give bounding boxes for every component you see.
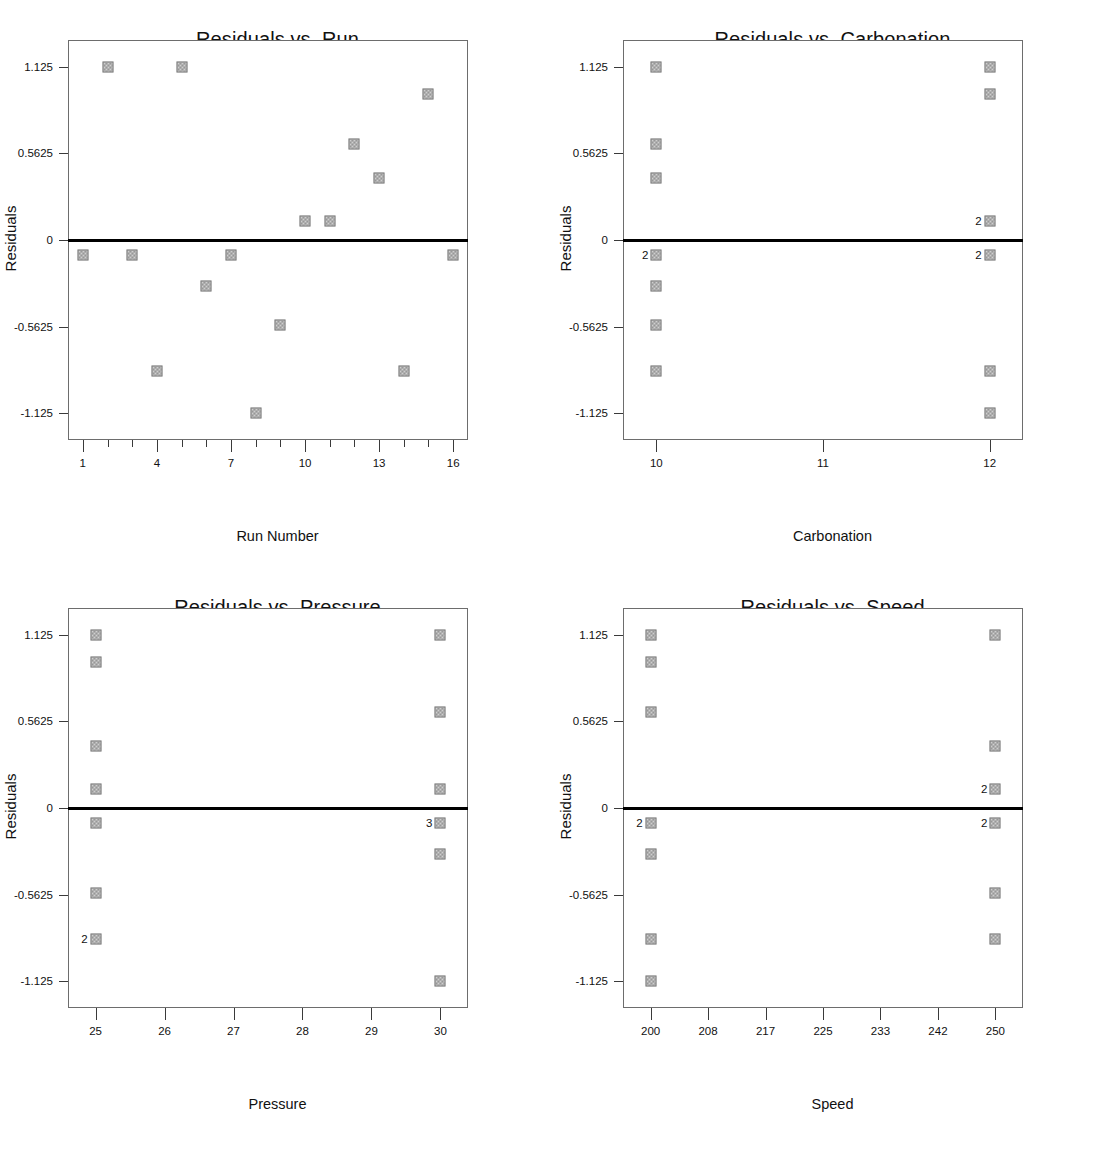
data-point-marker[interactable] (645, 933, 656, 944)
y-axis-tick-label: -1.125 (0, 407, 53, 419)
y-axis-tick (614, 327, 623, 328)
data-point-marker[interactable] (448, 250, 459, 261)
data-point-marker[interactable] (645, 976, 656, 987)
x-axis-tick (165, 1008, 166, 1020)
data-point-marker[interactable] (349, 138, 360, 149)
data-point-marker[interactable] (990, 783, 1001, 794)
y-axis-tick (59, 721, 68, 722)
y-axis-tick-label: 0.5625 (0, 147, 53, 159)
x-axis-tick (990, 440, 991, 452)
data-point-marker[interactable] (300, 215, 311, 226)
y-axis-tick (614, 240, 623, 241)
overlap-count-label: 2 (975, 215, 983, 227)
data-point-marker[interactable] (651, 61, 662, 72)
x-axis-tick-label: 29 (365, 1025, 378, 1037)
data-point-marker[interactable] (984, 88, 995, 99)
x-axis-tick (656, 440, 657, 452)
data-point-marker[interactable] (990, 629, 1001, 640)
data-point-marker[interactable] (374, 173, 385, 184)
data-point-marker[interactable] (90, 818, 101, 829)
data-point-marker[interactable] (90, 629, 101, 640)
data-point-marker[interactable] (324, 215, 335, 226)
data-point-marker[interactable] (984, 61, 995, 72)
data-point-marker[interactable] (645, 849, 656, 860)
x-axis-tick-label: 25 (89, 1025, 102, 1037)
zero-reference-line (68, 239, 468, 242)
overlap-count-label: 2 (981, 783, 989, 795)
overlap-count-label: 2 (636, 817, 644, 829)
x-axis-tick-label: 10 (650, 457, 663, 469)
data-point-marker[interactable] (102, 61, 113, 72)
data-point-marker[interactable] (423, 88, 434, 99)
data-point-marker[interactable] (984, 250, 995, 261)
x-axis-tick-label: 4 (154, 457, 160, 469)
data-point-marker[interactable] (225, 250, 236, 261)
data-point-marker[interactable] (645, 629, 656, 640)
x-axis-tick (302, 1008, 303, 1020)
data-point-marker[interactable] (645, 818, 656, 829)
data-point-marker[interactable] (990, 933, 1001, 944)
data-point-marker[interactable] (90, 933, 101, 944)
data-point-marker[interactable] (651, 319, 662, 330)
data-point-marker[interactable] (201, 281, 212, 292)
x-axis-tick-label: 16 (447, 457, 460, 469)
y-axis-title: Residuals (2, 757, 19, 857)
data-point-marker[interactable] (645, 656, 656, 667)
data-point-marker[interactable] (275, 319, 286, 330)
x-axis-minor-tick (206, 440, 207, 447)
data-point-marker[interactable] (984, 365, 995, 376)
data-point-marker[interactable] (645, 706, 656, 717)
data-point-marker[interactable] (651, 281, 662, 292)
data-point-marker[interactable] (984, 408, 995, 419)
y-axis-title: Residuals (557, 757, 574, 857)
x-axis-minor-tick (182, 440, 183, 447)
data-point-marker[interactable] (151, 365, 162, 376)
data-point-marker[interactable] (176, 61, 187, 72)
y-axis-tick-label: -1.125 (553, 407, 608, 419)
x-axis-tick (995, 1008, 996, 1020)
x-axis-tick-label: 217 (756, 1025, 775, 1037)
y-axis-title: Residuals (557, 189, 574, 289)
data-point-marker[interactable] (435, 818, 446, 829)
data-point-marker[interactable] (435, 976, 446, 987)
y-axis-tick (59, 327, 68, 328)
data-point-marker[interactable] (90, 887, 101, 898)
x-axis-tick-label: 225 (813, 1025, 832, 1037)
data-point-marker[interactable] (398, 365, 409, 376)
data-point-marker[interactable] (90, 656, 101, 667)
data-point-marker[interactable] (90, 741, 101, 752)
y-axis-tick-label: 0.5625 (0, 715, 53, 727)
data-point-marker[interactable] (990, 818, 1001, 829)
data-point-marker[interactable] (127, 250, 138, 261)
data-point-marker[interactable] (651, 365, 662, 376)
x-axis-tick (453, 440, 454, 452)
data-point-marker[interactable] (651, 138, 662, 149)
zero-reference-line (623, 807, 1023, 810)
data-point-marker[interactable] (77, 250, 88, 261)
data-point-marker[interactable] (984, 215, 995, 226)
data-point-marker[interactable] (250, 408, 261, 419)
y-axis-tick-label: 1.125 (0, 629, 53, 641)
overlap-count-label: 3 (426, 817, 434, 829)
x-axis-tick (157, 440, 158, 452)
y-axis-tick (59, 635, 68, 636)
data-point-marker[interactable] (990, 887, 1001, 898)
y-axis-tick-label: -0.5625 (0, 889, 53, 901)
data-point-marker[interactable] (435, 706, 446, 717)
data-point-marker[interactable] (90, 783, 101, 794)
data-point-marker[interactable] (990, 741, 1001, 752)
data-point-marker[interactable] (435, 783, 446, 794)
data-point-marker[interactable] (435, 629, 446, 640)
x-axis-tick-label: 11 (817, 457, 829, 469)
x-axis-tick (371, 1008, 372, 1020)
x-axis-minor-tick (256, 440, 257, 447)
x-axis-tick (96, 1008, 97, 1020)
data-point-marker[interactable] (651, 173, 662, 184)
x-axis-tick (823, 1008, 824, 1020)
x-axis-title: Carbonation (555, 528, 1110, 544)
x-axis-tick-label: 10 (299, 457, 312, 469)
data-point-marker[interactable] (651, 250, 662, 261)
y-axis-tick-label: -0.5625 (553, 321, 608, 333)
data-point-marker[interactable] (435, 849, 446, 860)
zero-reference-line (623, 239, 1023, 242)
